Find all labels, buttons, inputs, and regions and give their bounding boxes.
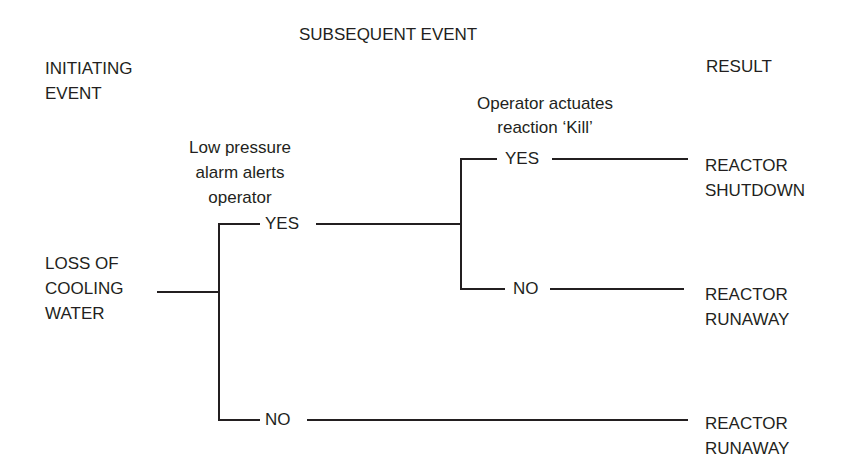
event2-no-line-left: [460, 288, 505, 290]
event1-split-line: [218, 223, 220, 421]
event1-no-label: NO: [265, 409, 291, 431]
outcome1-line1: REACTOR: [705, 155, 788, 177]
initiating-event-line2: COOLING: [45, 278, 123, 300]
event2-yes-line-left: [460, 158, 497, 160]
event2-no-label: NO: [513, 278, 539, 300]
initiating-event-line1: LOSS OF: [45, 253, 119, 275]
outcome1-line2: SHUTDOWN: [705, 180, 805, 202]
event2-label-line2: reaction ‘Kill’: [455, 117, 635, 139]
event1-yes-line-right: [316, 223, 462, 225]
event2-yes-label: YES: [505, 148, 539, 170]
result-header: RESULT: [706, 56, 772, 78]
event1-label-line1: Low pressure: [170, 137, 310, 159]
initiating-event-header-line1: INITIATING: [45, 58, 133, 80]
initiating-event-line3: WATER: [45, 303, 105, 325]
subsequent-event-header: SUBSEQUENT EVENT: [299, 24, 477, 46]
event2-split-line: [460, 158, 462, 290]
event2-no-line-right: [550, 288, 684, 290]
event1-no-line-right: [307, 419, 688, 421]
event2-label-line1: Operator actuates: [455, 93, 635, 115]
event1-label-line3: operator: [170, 187, 310, 209]
event1-no-line-left: [218, 419, 260, 421]
outcome3-line1: REACTOR: [705, 413, 788, 435]
event1-yes-label: YES: [265, 213, 299, 235]
outcome3-line2: RUNAWAY: [705, 438, 789, 460]
event1-label-line2: alarm alerts: [170, 162, 310, 184]
outcome2-line2: RUNAWAY: [705, 309, 789, 331]
event1-yes-line-left: [218, 223, 260, 225]
root-branch-line: [157, 291, 220, 293]
event2-yes-line-right: [552, 158, 688, 160]
outcome2-line1: REACTOR: [705, 284, 788, 306]
initiating-event-header-line2: EVENT: [45, 83, 102, 105]
